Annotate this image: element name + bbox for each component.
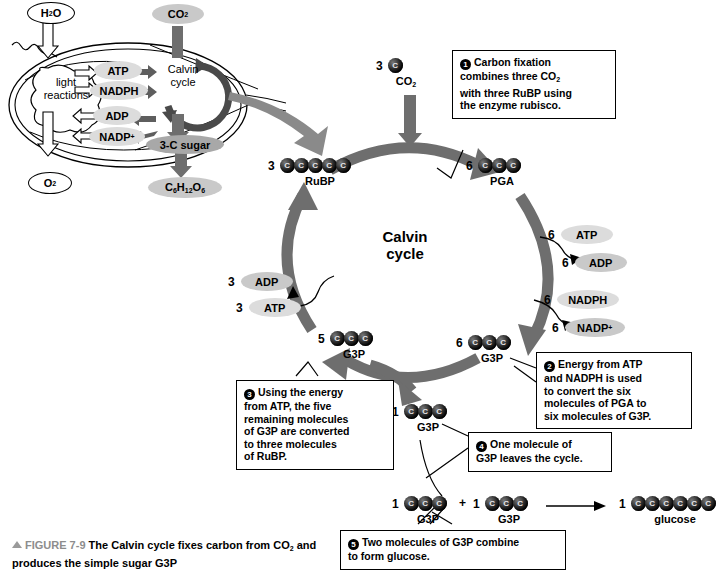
rubp-label: RuBP bbox=[282, 175, 358, 187]
g3p-sum-b-label: G3P bbox=[485, 513, 533, 525]
h2o-label: H2O bbox=[27, 2, 75, 24]
carbon-bead bbox=[280, 158, 295, 173]
calvin-inset-line2: cycle bbox=[152, 76, 214, 89]
carbon-bead bbox=[322, 158, 337, 173]
chloroplast-inset: H2O CO2 O2 light reactions ATP NADPH ADP… bbox=[0, 0, 262, 205]
glucose-sum-row: 1 G3P + 1 G3P 1 glucose bbox=[392, 496, 719, 525]
plus-sign: + bbox=[459, 496, 466, 511]
callout-5: 5Two molecules of G3P combine to form gl… bbox=[340, 530, 566, 570]
cofactor-atp-left: 3 ATP bbox=[236, 298, 301, 317]
g3p-left-beads bbox=[330, 331, 372, 346]
cofactor-atp-right: 6 ATP bbox=[548, 225, 613, 244]
atp-right-count: 6 bbox=[548, 228, 555, 242]
carbon-bead bbox=[485, 496, 500, 511]
carbon-bead bbox=[468, 335, 483, 350]
rubp-beads bbox=[280, 158, 350, 173]
adp-left-pill: ADP bbox=[241, 272, 293, 291]
calvin-inset-line1: Calvin bbox=[152, 63, 214, 76]
figure-number: FIGURE 7-9 bbox=[25, 539, 86, 551]
glucose-count: 1 bbox=[619, 497, 626, 511]
nadph-inset-pill: NADPH bbox=[90, 81, 148, 100]
callout-2-bullet: 2 bbox=[544, 361, 555, 372]
g3p-left-count: 5 bbox=[318, 332, 325, 346]
molecule-rubp: 3 RuBP bbox=[268, 158, 358, 187]
co2-text: CO bbox=[168, 8, 185, 20]
pga-beads bbox=[478, 158, 520, 173]
carbon-bead bbox=[418, 404, 433, 419]
carbon-bead bbox=[404, 404, 419, 419]
callout3-leader bbox=[296, 362, 318, 376]
co2-inset-label: CO2 bbox=[152, 4, 204, 24]
callout-2-line4: molecules of PGA to bbox=[544, 397, 646, 409]
nadph-inset-text: NADPH bbox=[99, 85, 138, 97]
callout-3-bullet: 3 bbox=[244, 389, 255, 400]
gf-6b: 6 bbox=[201, 187, 205, 194]
glucose-formula-pill: C6H12O6 bbox=[148, 177, 222, 198]
callout-1-line4: the enzyme rubisco. bbox=[460, 99, 561, 111]
carbon-bead bbox=[499, 496, 514, 511]
molecule-co2-in: 3 CO2 bbox=[376, 58, 426, 88]
cofactor-adp-left: 3 ADP bbox=[228, 272, 293, 291]
carbon-bead bbox=[496, 335, 511, 350]
carbon-bead bbox=[673, 496, 688, 511]
co2-sub: 2 bbox=[184, 11, 188, 18]
gf-12: 12 bbox=[185, 187, 193, 194]
carbon-bead bbox=[492, 158, 507, 173]
callout-3-line4: of G3P are converted bbox=[244, 425, 349, 437]
molecule-g3p-exit: 1 G3P bbox=[392, 404, 452, 433]
atp-inset-text: ATP bbox=[107, 65, 128, 77]
gf-o: O bbox=[193, 181, 202, 193]
carbon-bead bbox=[418, 496, 433, 511]
gf-c1: C bbox=[165, 181, 173, 193]
co2-in-label-sub: 2 bbox=[412, 81, 416, 88]
g3p-exit-arrowhead bbox=[398, 380, 422, 406]
co2-entry-arrow bbox=[398, 95, 422, 147]
callout-3: 3Using the energy from ATP, the five rem… bbox=[236, 380, 394, 470]
glucose-beads bbox=[631, 496, 715, 511]
carbon-bead bbox=[659, 496, 674, 511]
cofactor-nadp-right: 6 NADP+ bbox=[552, 318, 625, 337]
carbon-bead bbox=[478, 158, 493, 173]
nadp-right-sup: + bbox=[608, 324, 612, 331]
cycle-center-label: Calvin cycle bbox=[355, 228, 455, 262]
callout-3-line2: from ATP, the five bbox=[244, 400, 331, 412]
callout1-leader bbox=[437, 150, 463, 178]
callout-2-line3: to convert the six bbox=[544, 385, 631, 397]
nadp-inset-sup: + bbox=[131, 133, 135, 140]
carbon-bead bbox=[631, 496, 646, 511]
callout-5-line1: Two molecules of G3P combine bbox=[362, 536, 519, 548]
adp-inset-text: ADP bbox=[105, 110, 128, 122]
cycle-center-line2: cycle bbox=[355, 245, 455, 262]
h2o-text: H bbox=[41, 7, 49, 19]
molecule-g3p-left: 5 G3P bbox=[318, 331, 378, 360]
nadph-right-pill: NADPH bbox=[557, 290, 619, 309]
glucose-formula-text: C6H12O6 bbox=[165, 181, 205, 194]
carbon-bead bbox=[506, 158, 521, 173]
molecule-g3p-sum-b: 1 G3P bbox=[473, 496, 533, 525]
g3p-sum-a-beads bbox=[404, 496, 446, 511]
cofactor-adp-right: 6 ADP bbox=[562, 253, 627, 272]
g3p-sum-a-count: 1 bbox=[392, 497, 399, 511]
callout-4: 4One molecule of G3P leaves the cycle. bbox=[468, 432, 612, 472]
g3p-exit-label: G3P bbox=[404, 421, 452, 433]
callout-5-bullet: 5 bbox=[348, 539, 359, 550]
atp-left-pill: ATP bbox=[249, 298, 301, 317]
figure-caption-line1: The Calvin cycle fixes carbon from CO bbox=[89, 539, 290, 551]
adp-right-count: 6 bbox=[562, 256, 569, 270]
g3p-right-label: G3P bbox=[468, 352, 516, 364]
callout-2-line2: and NADPH is used bbox=[544, 372, 642, 384]
carbon-bead bbox=[358, 331, 373, 346]
nadp-inset-pill: NADP+ bbox=[89, 127, 145, 146]
co2-in-label-text: CO bbox=[396, 75, 413, 87]
carbon-bead bbox=[513, 496, 528, 511]
carbon-bead bbox=[432, 404, 447, 419]
carbon-bead bbox=[432, 496, 447, 511]
callout-1: 1Carbon fixation combines three CO2 with… bbox=[452, 50, 616, 119]
calvin-inset-label: Calvin cycle bbox=[152, 63, 214, 89]
three-c-sugar-pill: 3-C sugar bbox=[146, 135, 224, 154]
callout-2-line1: Energy from ATP bbox=[558, 358, 643, 370]
gf-h: H bbox=[177, 181, 185, 193]
nadp-inset-text: NADP bbox=[99, 131, 130, 143]
carbon-bead bbox=[701, 496, 716, 511]
carbon-bead bbox=[645, 496, 660, 511]
